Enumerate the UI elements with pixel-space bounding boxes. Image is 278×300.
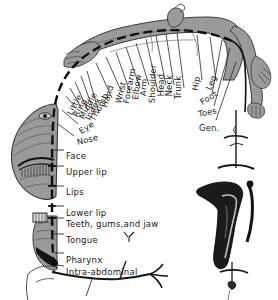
genital-vignette-upper [218, 110, 254, 169]
side-label: Intra-abdominal [66, 268, 138, 277]
sensory-homunculus-figure: LittleRingMiddleIndexThumbEyeNoseHandWri… [0, 0, 278, 300]
side-label: Teeth, gums,and jaw [66, 220, 159, 229]
side-label: Tongue [66, 236, 98, 245]
leg-foot-vignette [197, 181, 254, 269]
side-label: Face [66, 152, 86, 161]
teeth-box-icon [33, 213, 47, 222]
homunculus-artwork [0, 0, 278, 300]
side-label: Pharynx [66, 256, 102, 265]
side-label: Lips [66, 188, 84, 197]
arc-label: Hip [191, 76, 202, 92]
arc-label: Gen. [199, 124, 219, 132]
side-label: Upper lip [66, 168, 107, 177]
side-label: Lower lip [66, 209, 107, 218]
arc-label: Trunk [174, 76, 182, 100]
